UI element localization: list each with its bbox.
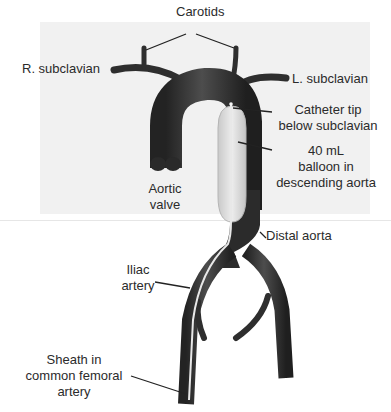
label-sheath-line3: artery (16, 384, 132, 400)
iliac-arteries (186, 250, 286, 404)
leader-iliac (155, 282, 190, 288)
label-aortic-valve-line2: valve (140, 197, 190, 213)
label-aortic-valve: Aortic valve (140, 181, 190, 213)
label-balloon-line3: descending aorta (266, 175, 386, 191)
leader-sheath (131, 376, 186, 394)
label-sheath: Sheath in common femoral artery (16, 352, 132, 400)
label-iliac-line1: Iliac (118, 262, 158, 278)
label-balloon-line2: balloon in (266, 159, 386, 175)
label-iliac-artery: Iliac artery (118, 262, 158, 294)
label-distal-aorta: Distal aorta (266, 228, 332, 244)
leader-carotids-right (146, 34, 186, 50)
label-carotids: Carotids (176, 4, 224, 20)
label-l-subclavian: L. subclavian (292, 71, 368, 87)
label-balloon-line1: 40 mL (266, 143, 386, 159)
label-sheath-line1: Sheath in (16, 352, 132, 368)
leader-carotids-left (196, 34, 234, 48)
label-balloon: 40 mL balloon in descending aorta (266, 143, 386, 191)
label-catheter-tip-line1: Catheter tip (272, 102, 384, 118)
label-catheter-tip: Catheter tip below subclavian (272, 102, 384, 134)
label-iliac-line2: artery (118, 278, 158, 294)
label-catheter-tip-line2: below subclavian (272, 118, 384, 134)
r-subclavian-vessel (114, 48, 182, 80)
label-aortic-valve-line1: Aortic (140, 181, 190, 197)
label-r-subclavian: R. subclavian (22, 61, 100, 77)
label-sheath-line2: common femoral (16, 368, 132, 384)
